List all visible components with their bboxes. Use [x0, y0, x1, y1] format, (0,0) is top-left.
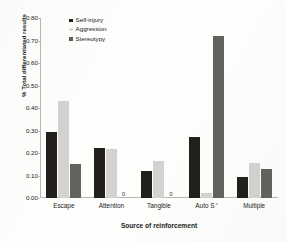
bar-attention-self-injury[interactable]: [94, 148, 105, 198]
legend-item-label: Aggression: [76, 26, 107, 33]
legend-item-aggression[interactable]: Aggression: [69, 26, 107, 33]
legend-swatch-stereotypy: [69, 37, 73, 41]
bar-multiple-self-injury[interactable]: [237, 177, 248, 198]
plot-area: 00: [40, 18, 278, 198]
x-axis-title: Source of reinforcement: [40, 222, 278, 229]
bar-tangible-aggression[interactable]: [153, 161, 164, 198]
zero-value-label: 0: [165, 192, 176, 197]
bar-tangible-self-injury[interactable]: [141, 171, 152, 198]
bar-group-auto-s: [183, 18, 231, 198]
bar-group-escape: [40, 18, 88, 198]
y-axis-tick-mark: [37, 176, 40, 177]
legend-item-label: Self-injury: [76, 17, 104, 24]
bar-escape-self-injury[interactable]: [46, 132, 57, 198]
x-axis-label-tangible: Tangible: [135, 202, 183, 210]
bar-auto-s-stereotypy[interactable]: [213, 36, 224, 198]
x-axis-label-auto-s: Auto S r: [183, 202, 231, 210]
bar-escape-aggression[interactable]: [58, 101, 69, 198]
bar-group-attention: 0: [88, 18, 136, 198]
x-axis-label-escape: Escape: [40, 202, 88, 210]
y-axis-tick-labels: 0.000.100.200.300.400.500.600.700.80: [16, 18, 38, 198]
y-axis-tick-mark: [37, 131, 40, 132]
bar-group-multiple: [230, 18, 278, 198]
legend-item-stereotypy[interactable]: Stereotypy: [69, 35, 107, 42]
bar-multiple-aggression[interactable]: [249, 163, 260, 198]
bar-group-tangible: 0: [135, 18, 183, 198]
bar-attention-stereotypy[interactable]: 0: [118, 192, 129, 198]
bar-attention-aggression[interactable]: [106, 149, 117, 198]
x-axis-label-attention: Attention: [88, 202, 136, 210]
bar-groups: 00: [40, 18, 278, 198]
x-axis-category-labels: EscapeAttentionTangibleAuto S rMultiple: [40, 202, 278, 210]
y-axis-tick-mark: [37, 18, 40, 19]
zero-value-label: 0: [118, 192, 129, 197]
y-axis-tick-mark: [37, 86, 40, 87]
y-axis-tick-mark: [37, 198, 40, 199]
legend-item-self-injury[interactable]: Self-injury: [69, 17, 107, 24]
y-axis-tick-mark: [37, 63, 40, 64]
y-axis-tick-mark: [37, 153, 40, 154]
x-axis-label-text: Auto S: [195, 202, 216, 209]
bar-auto-s-self-injury[interactable]: [189, 137, 200, 198]
legend-item-label: Stereotypy: [76, 36, 106, 43]
bar-multiple-stereotypy[interactable]: [261, 169, 272, 198]
x-axis-label-multiple: Multiple: [230, 202, 278, 210]
y-axis-tick-mark: [37, 108, 40, 109]
bar-tangible-stereotypy[interactable]: 0: [165, 192, 176, 198]
bar-escape-stereotypy[interactable]: [70, 164, 81, 198]
bar-chart: % Total differentiated results 0.000.100…: [0, 0, 286, 242]
legend-swatch-aggression: [69, 28, 73, 32]
y-axis-tick-mark: [37, 41, 40, 42]
x-axis-label-superscript: r: [216, 201, 217, 206]
bar-auto-s-aggression[interactable]: [201, 193, 212, 198]
legend-swatch-self-injury: [69, 19, 73, 23]
legend: Self-injuryAggressionStereotypy: [69, 17, 107, 42]
